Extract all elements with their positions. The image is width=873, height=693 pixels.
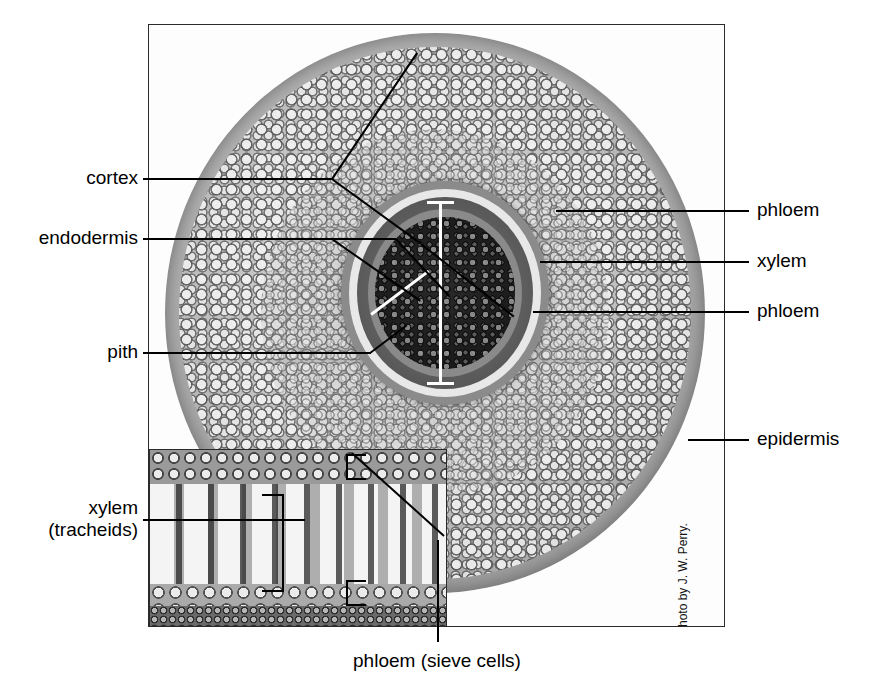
xylem-span-marker-cap-bottom bbox=[427, 382, 454, 385]
label-endodermis: endodermis bbox=[0, 227, 138, 249]
inset-phloem-bracket-lower-line bbox=[346, 580, 348, 606]
label-xylem-right: xylem bbox=[757, 250, 807, 272]
inset-xylem-bracket-line bbox=[282, 494, 284, 592]
endodermis-leader-horizontal bbox=[143, 238, 396, 240]
epidermis-leader bbox=[688, 439, 749, 441]
inset-longitudinal-section bbox=[149, 449, 447, 627]
inset-xylem-bracket-cap-top bbox=[262, 494, 284, 496]
micrograph-photo: Photo by J. W. Perry. bbox=[148, 24, 725, 627]
label-phloem-upper: phloem bbox=[757, 199, 819, 221]
xylem-span-marker-cap-top bbox=[427, 201, 454, 204]
inset-lower-tissue bbox=[150, 606, 446, 627]
label-xylem-tracheids: xylem (tracheids) bbox=[0, 497, 138, 542]
inset-phloem-bracket-lower-cap-bottom bbox=[346, 604, 366, 606]
phloem-lower-leader bbox=[533, 311, 749, 313]
label-xylem-tracheids-line2: (tracheids) bbox=[48, 519, 138, 540]
xylem-right-leader bbox=[540, 261, 749, 263]
label-pith: pith bbox=[0, 341, 138, 363]
phloem-upper-leader bbox=[556, 210, 749, 212]
label-epidermis: epidermis bbox=[757, 428, 839, 450]
inset-upper-cells bbox=[150, 450, 446, 484]
inset-phloem-bracket-upper-line bbox=[346, 454, 348, 480]
pith-leader-horizontal bbox=[143, 352, 371, 354]
label-phloem-lower: phloem bbox=[757, 300, 819, 322]
inset-phloem-bracket-upper-cap-bottom bbox=[346, 478, 366, 480]
label-xylem-tracheids-line1: xylem bbox=[88, 497, 138, 518]
xylem-tracheids-leader bbox=[143, 519, 305, 521]
label-phloem-sieve-cells: phloem (sieve cells) bbox=[337, 650, 537, 672]
xylem-span-marker-line bbox=[439, 201, 442, 385]
inset-phloem-bracket-lower-cap-top bbox=[346, 580, 366, 582]
figure-root: Photo by J. W. Perry. cortex endodermis … bbox=[0, 0, 873, 693]
cortex-leader-horizontal bbox=[143, 178, 333, 180]
phloem-sieve-leader-vertical bbox=[437, 540, 439, 642]
inset-phloem-cells bbox=[150, 584, 446, 606]
label-cortex: cortex bbox=[0, 167, 138, 189]
photo-credit: Photo by J. W. Perry. bbox=[676, 523, 690, 627]
inset-xylem-bracket-cap-bottom bbox=[262, 590, 284, 592]
